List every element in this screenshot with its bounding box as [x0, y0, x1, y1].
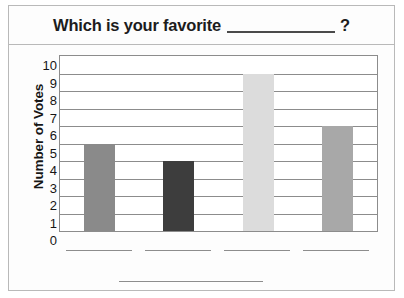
bar-chart: Number of Votes 109876543210 [9, 45, 394, 292]
question-prefix-text: Which is your favorite [53, 16, 221, 34]
category-label-line[interactable] [224, 250, 290, 251]
question-header: Which is your favorite? [9, 6, 394, 45]
bar [243, 74, 274, 232]
x-axis-title-line[interactable] [119, 281, 263, 282]
y-axis-tick-labels: 109876543210 [35, 55, 57, 230]
y-tick-label: 1 [35, 216, 57, 229]
gridline [60, 91, 377, 92]
y-tick-label: 5 [35, 146, 57, 159]
y-tick-label: 2 [35, 199, 57, 212]
category-label-line[interactable] [145, 250, 211, 251]
category-label-lines [9, 250, 394, 264]
question-suffix-text: ? [340, 16, 350, 34]
y-tick-label: 9 [35, 76, 57, 89]
bar [163, 161, 194, 231]
y-tick-label: 6 [35, 129, 57, 142]
y-tick-label: 8 [35, 94, 57, 107]
question-blank-line[interactable] [227, 18, 335, 33]
bar [84, 144, 115, 232]
plot-area [59, 55, 378, 232]
y-tick-label: 10 [35, 59, 57, 72]
y-tick-label: 7 [35, 111, 57, 124]
bar [322, 126, 353, 231]
y-tick-label: 0 [35, 234, 57, 247]
y-tick-label: 3 [35, 181, 57, 194]
gridline [60, 109, 377, 110]
gridline [60, 74, 377, 75]
y-tick-label: 4 [35, 164, 57, 177]
category-label-line[interactable] [303, 250, 369, 251]
worksheet-card: Which is your favorite? Number of Votes … [8, 5, 395, 291]
question-title: Which is your favorite? [53, 16, 350, 35]
category-label-line[interactable] [66, 250, 132, 251]
